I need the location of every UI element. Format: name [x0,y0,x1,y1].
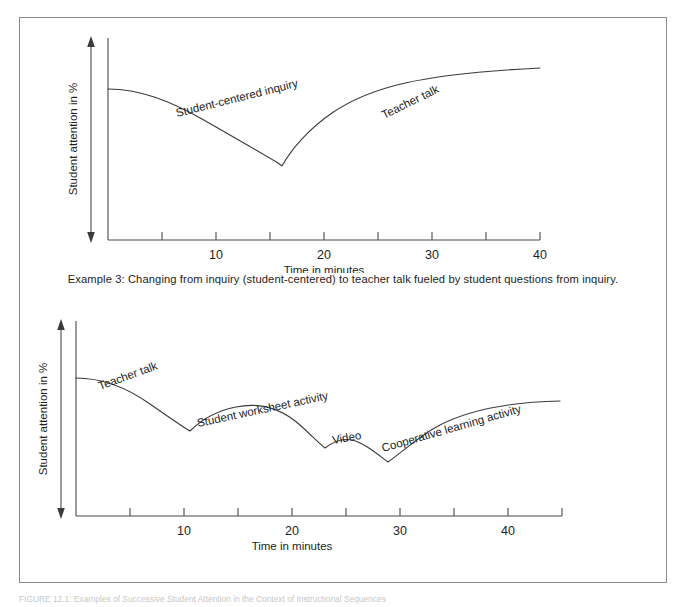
chart-panel-example-4: Student attention in % 10 20 30 40 Time … [20,301,666,582]
curve-label-student-centered-inquiry: Student-centered inquiry [175,77,300,119]
y-axis-title-top: Student attention in % [67,83,79,196]
attention-curve-top [108,68,540,166]
caption-example-3: Example 3: Changing from inquiry (studen… [20,273,666,285]
curve-label-student-worksheet-activity: Student worksheet activity [196,389,329,429]
chart-panel-example-3: Student attention in % 10 20 30 40 Time … [20,18,666,301]
figure-frame: Student attention in % 10 20 30 40 Time … [19,17,667,583]
x-tick-label-30-top: 30 [425,248,439,262]
x-axis-ticks-top [162,232,540,240]
curve-label-video: Video [331,429,362,446]
y-axis-arrow-bottom [57,319,65,519]
y-axis-title-bottom: Student attention in % [37,363,49,476]
y-axis-arrow-top [87,36,95,243]
curve-label-teacher-talk-bottom: Teacher talk [97,359,160,392]
x-tick-label-20-top: 20 [317,248,331,262]
x-tick-label-10-bottom: 10 [177,524,191,538]
x-axis-title-top: Time in minutes [284,264,365,273]
chart-example-3: Student attention in % 10 20 30 40 Time … [20,18,668,273]
x-tick-label-20-bottom: 20 [285,524,299,538]
x-tick-label-30-bottom: 30 [393,524,407,538]
x-tick-label-10-top: 10 [209,248,223,262]
figure-note: FIGURE 12.1: Examples of Successive Stud… [19,594,639,605]
x-tick-label-40-top: 40 [533,248,547,262]
chart-example-4: Student attention in % 10 20 30 40 Time … [20,301,668,556]
curve-label-cooperative-learning-activity: Cooperative learning activity [380,402,522,453]
x-axis-title-bottom: Time in minutes [252,540,333,552]
x-tick-label-40-bottom: 40 [501,524,515,538]
x-axis-ticks-bottom [130,508,562,516]
curve-label-teacher-talk-top: Teacher talk [380,83,441,121]
